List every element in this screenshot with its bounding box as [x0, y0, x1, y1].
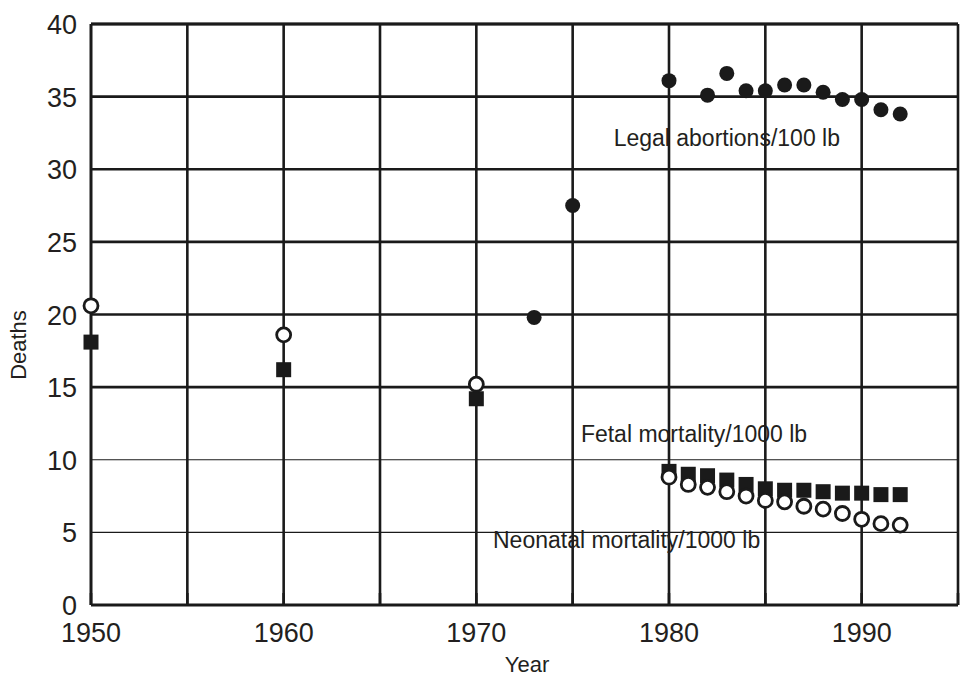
series-annotation-2: Neonatal mortality/1000 lb — [493, 527, 760, 553]
marker-filled-square — [893, 487, 908, 502]
marker-open-circle — [720, 485, 734, 499]
marker-open-circle — [874, 517, 888, 531]
series-annotation-1: Fetal mortality/1000 lb — [581, 421, 807, 447]
x-tick-label: 1980 — [639, 618, 699, 648]
y-tick-label: 15 — [47, 373, 77, 403]
series-annotation-0: Legal abortions/100 lb — [614, 125, 840, 151]
y-tick-label: 35 — [47, 83, 77, 113]
chart-canvas: 051015202530354019501960197019801990 Leg… — [0, 0, 963, 681]
series-0 — [527, 66, 908, 325]
marker-open-circle — [835, 506, 849, 520]
marker-filled-square — [873, 487, 888, 502]
marker-filled-square — [835, 486, 850, 501]
marker-filled-circle — [816, 85, 831, 100]
marker-filled-circle — [796, 78, 811, 93]
series-2 — [84, 299, 907, 532]
marker-filled-circle — [835, 92, 850, 107]
y-tick-label: 20 — [47, 301, 77, 331]
y-tick-label: 10 — [47, 446, 77, 476]
marker-open-circle — [681, 477, 695, 491]
marker-filled-circle — [873, 102, 888, 117]
grid-lines — [91, 24, 958, 605]
x-tick-label: 1970 — [446, 618, 506, 648]
y-tick-label: 30 — [47, 155, 77, 185]
marker-filled-circle — [527, 310, 542, 325]
x-tick-label: 1960 — [254, 618, 314, 648]
marker-filled-square — [84, 335, 99, 350]
x-axis-title: Year — [505, 652, 549, 677]
marker-filled-circle — [854, 92, 869, 107]
marker-filled-square — [854, 486, 869, 501]
marker-filled-circle — [777, 78, 792, 93]
marker-filled-circle — [739, 83, 754, 98]
marker-open-circle — [739, 489, 753, 503]
y-tick-label: 0 — [62, 591, 77, 621]
marker-filled-circle — [758, 83, 773, 98]
x-tick-label: 1990 — [832, 618, 892, 648]
marker-open-circle — [701, 480, 715, 494]
marker-open-circle — [855, 512, 869, 526]
marker-open-circle — [893, 518, 907, 532]
marker-open-circle — [469, 377, 483, 391]
y-axis-title: Deaths — [6, 310, 31, 380]
marker-filled-square — [469, 391, 484, 406]
marker-open-circle — [758, 493, 772, 507]
marker-open-circle — [277, 328, 291, 342]
marker-open-circle — [797, 499, 811, 513]
marker-filled-circle — [565, 198, 580, 213]
marker-filled-square — [276, 362, 291, 377]
marker-open-circle — [84, 299, 98, 313]
marker-filled-square — [816, 484, 831, 499]
x-tick-label: 1950 — [61, 618, 121, 648]
marker-filled-circle — [893, 107, 908, 122]
marker-open-circle — [816, 502, 830, 516]
marker-open-circle — [662, 470, 676, 484]
y-tick-label: 5 — [62, 518, 77, 548]
y-tick-label: 40 — [47, 10, 77, 40]
marker-filled-square — [796, 483, 811, 498]
marker-filled-circle — [662, 73, 677, 88]
series-1 — [84, 335, 908, 503]
marker-filled-circle — [719, 66, 734, 81]
y-tick-label: 25 — [47, 228, 77, 258]
chart-figure: 051015202530354019501960197019801990 Leg… — [0, 0, 963, 681]
marker-open-circle — [778, 495, 792, 509]
marker-filled-circle — [700, 88, 715, 103]
